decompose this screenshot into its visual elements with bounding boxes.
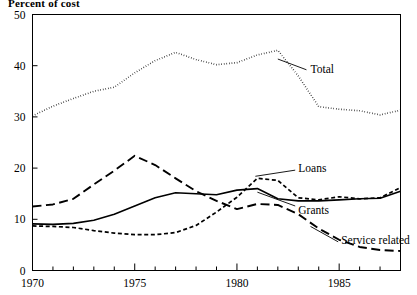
x-tick-label: 1985 xyxy=(328,277,351,289)
y-tick-label: 40 xyxy=(14,60,26,72)
x-tick-label: 1975 xyxy=(123,277,146,289)
annotation-leader-line xyxy=(311,226,339,241)
y-tick-label: 20 xyxy=(14,162,26,174)
y-tick-label: 0 xyxy=(20,265,26,277)
series-line-total xyxy=(33,50,401,116)
x-tick-label: 1970 xyxy=(21,277,44,289)
series-label-grants: Grants xyxy=(298,204,329,216)
y-tick-label: 50 xyxy=(14,9,26,21)
annotation-leader-line xyxy=(278,59,307,70)
chart-container: Percent of cost 010203040501970197519801… xyxy=(0,0,417,295)
plot-frame xyxy=(33,15,401,271)
series-label-loans: Loans xyxy=(298,162,327,174)
plot-border xyxy=(33,15,401,271)
series-label-service-related: Service related xyxy=(341,234,410,246)
y-tick-label: 30 xyxy=(14,111,26,123)
series-line-loans xyxy=(33,178,401,234)
tick-labels-group: 010203040501970197519801985 xyxy=(14,9,351,289)
series-label-total: Total xyxy=(311,63,334,75)
series-annotations-group: TotalLoansGrantsService related xyxy=(255,59,410,246)
y-tick-label: 10 xyxy=(14,213,26,225)
annotation-leader-line xyxy=(255,170,295,176)
x-tick-label: 1980 xyxy=(225,277,248,289)
series-line-grants xyxy=(33,189,401,225)
data-series-group xyxy=(33,50,401,251)
line-chart-plot: 010203040501970197519801985 TotalLoansGr… xyxy=(0,0,417,295)
